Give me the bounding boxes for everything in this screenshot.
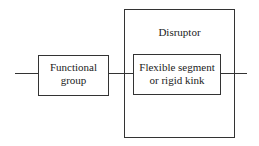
functional-group-line2: group — [38, 74, 109, 87]
flexible-segment-line2: or rigid kink — [133, 74, 221, 87]
flexible-segment-label: Flexible segment or rigid kink — [133, 61, 221, 87]
flexible-segment-line1: Flexible segment — [133, 61, 221, 74]
functional-group-line1: Functional — [38, 61, 109, 74]
disruptor-title: Disruptor — [124, 26, 235, 39]
connector-left — [15, 73, 38, 74]
functional-group-label: Functional group — [38, 61, 109, 87]
diagram-canvas: Functional group Disruptor Flexible segm… — [0, 0, 259, 146]
